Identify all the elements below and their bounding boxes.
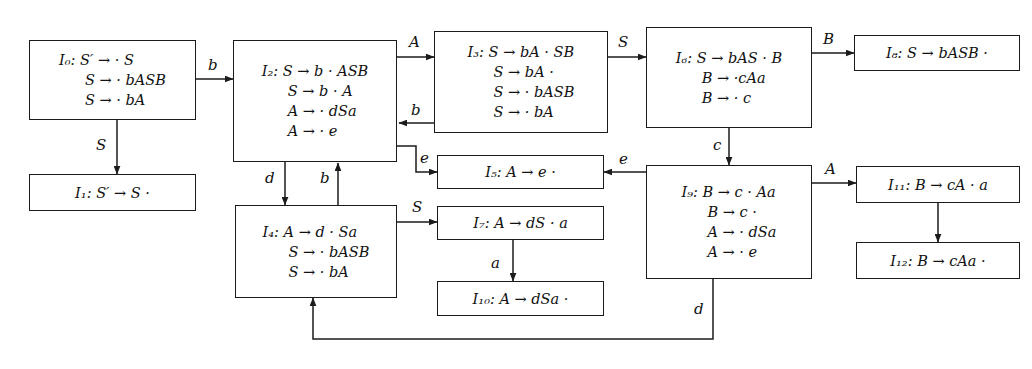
state-I0-item-1: S → · bASB xyxy=(59,70,166,90)
edge-label-I4-I7: S xyxy=(412,198,422,216)
state-I4-item-0: I₄: A → d · Sa xyxy=(263,222,370,242)
state-I7-item-0: I₇: A → dS · a xyxy=(473,213,568,233)
edge-label-I4-I2: b xyxy=(320,169,330,187)
edge-label-I0-I2: b xyxy=(208,56,218,74)
edge-label-I6-I8: B xyxy=(823,30,834,48)
state-I11-item-0: I₁₁: B → cA · a xyxy=(888,175,988,195)
state-I3-item-1: S → bA · xyxy=(468,62,575,82)
state-I9-item-0: I₉: B → c · Aa xyxy=(682,182,777,202)
state-I9-item-1: B → c · xyxy=(682,202,777,222)
edge-label-I2-I5: e xyxy=(420,149,429,167)
state-I8-item-0: I₈: S → bASB · xyxy=(886,43,988,63)
state-I12-item-0: I₁₂: B → cAa · xyxy=(890,251,985,271)
edge-label-I3-I6: S xyxy=(618,33,628,51)
edge-label-I9-I11: A xyxy=(825,160,836,178)
edge-label-I3-I2: b xyxy=(411,101,421,119)
state-I5-item-0: I₅: A → e · xyxy=(485,162,556,182)
state-I7[interactable]: I₇: A → dS · a xyxy=(437,206,604,240)
state-I4-item-1: S → · bASB xyxy=(263,242,370,262)
diagram-canvas: b S A b e d b S B c e A S a d I₀: S′ → ·… xyxy=(0,0,1032,369)
state-I8[interactable]: I₈: S → bASB · xyxy=(854,35,1020,71)
state-I1[interactable]: I₁: S′ → S · xyxy=(29,174,196,211)
state-I6-item-2: B → · c xyxy=(676,88,783,108)
edge-label-I2-I3: A xyxy=(409,33,420,51)
state-I6-item-1: B → ·cAa xyxy=(676,68,783,88)
state-I0-item-2: S → · bA xyxy=(59,90,166,110)
state-I4[interactable]: I₄: A → d · Sa S → · bASB S → · bA xyxy=(235,205,397,298)
state-I10-item-0: I₁₀: A → dSa · xyxy=(473,289,569,309)
state-I3[interactable]: I₃: S → bA · SB S → bA · S → · bASB S → … xyxy=(434,31,608,133)
state-I5[interactable]: I₅: A → e · xyxy=(437,155,604,189)
state-I2-item-3: A → · e xyxy=(262,121,369,141)
state-I9[interactable]: I₉: B → c · Aa B → c · A → · dSa A → · e xyxy=(646,165,812,279)
state-I4-item-2: S → · bA xyxy=(263,262,370,282)
state-I6[interactable]: I₆: S → bAS · B B → ·cAa B → · c xyxy=(646,27,812,128)
state-I9-item-3: A → · e xyxy=(682,242,777,262)
state-I0[interactable]: I₀: S′ → · S S → · bASB S → · bA xyxy=(29,40,196,120)
edge-label-I9-I4: d xyxy=(694,300,704,318)
state-I2[interactable]: I₂: S → b · ASB S → b · A A → · dSa A → … xyxy=(233,40,397,162)
state-I3-item-2: S → · bASB xyxy=(468,82,575,102)
state-I10[interactable]: I₁₀: A → dSa · xyxy=(437,281,604,316)
edge-label-I2-I4: d xyxy=(265,169,275,187)
arrow-I2-I5 xyxy=(397,146,437,172)
edge-label-I6-I9: c xyxy=(713,136,721,154)
state-I2-item-0: I₂: S → b · ASB xyxy=(262,61,369,81)
edge-label-I0-I1: S xyxy=(96,136,106,154)
state-I6-item-0: I₆: S → bAS · B xyxy=(676,48,783,68)
state-I3-item-3: S → · bA xyxy=(468,102,575,122)
state-I0-item-0: I₀: S′ → · S xyxy=(59,50,166,70)
state-I2-item-2: A → · dSa xyxy=(262,101,369,121)
state-I12[interactable]: I₁₂: B → cAa · xyxy=(856,242,1020,279)
state-I2-item-1: S → b · A xyxy=(262,81,369,101)
edge-label-I9-I5: e xyxy=(619,150,628,168)
state-I11[interactable]: I₁₁: B → cA · a xyxy=(856,166,1020,203)
state-I1-item-0: I₁: S′ → S · xyxy=(75,183,150,203)
state-I3-item-0: I₃: S → bA · SB xyxy=(468,42,575,62)
edge-label-I7-I10: a xyxy=(491,254,500,272)
state-I9-item-2: A → · dSa xyxy=(682,222,777,242)
